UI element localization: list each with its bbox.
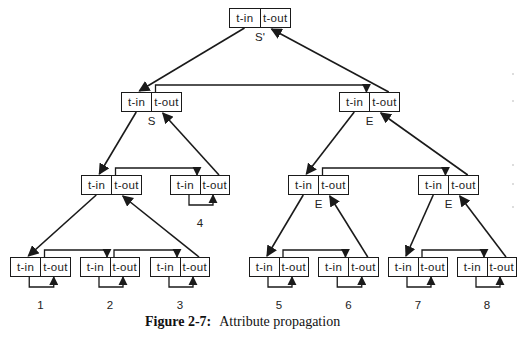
- t-out-cell: t-out: [112, 176, 141, 194]
- leaf-number-label: 1: [37, 299, 43, 311]
- t-in-cell: t-in: [289, 176, 319, 194]
- node-s: t-int-out: [121, 92, 182, 112]
- t-in-cell: t-in: [82, 176, 112, 194]
- sibling-arrow: [45, 250, 108, 257]
- leaf-number-label: 8: [484, 299, 490, 311]
- node-s_l: t-int-out: [81, 175, 142, 195]
- t-in-cell: t-in: [458, 258, 488, 276]
- leaf-loop-arrow: [407, 277, 431, 287]
- t-out-cell: t-out: [319, 176, 348, 194]
- leaf-number-label: 5: [276, 299, 282, 311]
- t-in-cell: t-in: [122, 93, 152, 111]
- t-in-cell: t-in: [151, 258, 181, 276]
- inherit-arrow: [406, 195, 433, 256]
- sibling-arrow: [283, 250, 345, 257]
- leaf-loop-arrow: [169, 277, 193, 287]
- t-out-cell: t-out: [152, 93, 181, 111]
- t-out-cell: t-out: [488, 258, 517, 276]
- leaf-number-label: 3: [177, 299, 183, 311]
- node-leaf2: t-int-out: [80, 257, 140, 277]
- node-leaf3: t-int-out: [150, 257, 210, 277]
- node-e1: t-int-out: [339, 92, 400, 112]
- nonterminal-label: S': [255, 31, 265, 43]
- synthesize-arrow: [330, 196, 368, 257]
- t-in-cell: t-in: [11, 258, 41, 276]
- leaf-number-label: 2: [107, 299, 113, 311]
- inherit-arrow: [139, 28, 244, 91]
- t-in-cell: t-in: [230, 9, 261, 27]
- t-in-cell: t-in: [340, 93, 370, 111]
- t-in-cell: t-in: [250, 258, 280, 276]
- node-leaf4: t-int-out: [170, 175, 230, 195]
- attribute-propagation-diagram: t-int-outS't-int-outSt-int-outEt-int-out…: [0, 0, 523, 337]
- inherit-arrow: [267, 195, 303, 256]
- edge-layer: [0, 0, 523, 337]
- t-out-cell: t-out: [181, 258, 210, 276]
- t-in-cell: t-in: [419, 176, 449, 194]
- sibling-arrow: [156, 85, 367, 92]
- leaf-number-label: 6: [345, 299, 351, 311]
- t-out-cell: t-out: [280, 258, 309, 276]
- leaf-number-label: 4: [197, 217, 203, 229]
- t-out-cell: t-out: [111, 258, 140, 276]
- figure-title: Attribute propagation: [219, 314, 340, 329]
- leaf-loop-arrow: [189, 195, 213, 205]
- nonterminal-label: S: [148, 115, 156, 127]
- t-in-cell: t-in: [171, 176, 201, 194]
- t-out-cell: t-out: [201, 176, 230, 194]
- t-out-cell: t-out: [41, 258, 70, 276]
- synthesize-arrow: [163, 113, 219, 175]
- leaf-loop-arrow: [337, 277, 362, 287]
- node-leaf8: t-int-out: [457, 257, 517, 277]
- leaf-loop-arrow: [268, 277, 292, 287]
- nonterminal-label: E: [315, 198, 323, 210]
- node-leaf7: t-int-out: [388, 257, 448, 277]
- t-in-cell: t-in: [389, 258, 419, 276]
- leaf-loop-arrow: [476, 277, 500, 287]
- t-out-cell: t-out: [419, 258, 448, 276]
- inherit-arrow: [28, 195, 96, 256]
- inherit-arrow: [306, 112, 354, 174]
- synthesize-arrow: [381, 113, 468, 175]
- synthesize-arrow: [123, 196, 199, 257]
- sibling-arrow: [114, 250, 177, 257]
- sibling-arrow: [422, 250, 484, 257]
- inherit-arrow: [99, 112, 136, 174]
- t-out-cell: t-out: [261, 9, 291, 27]
- t-out-cell: t-out: [370, 93, 399, 111]
- node-e2: t-int-out: [288, 175, 349, 195]
- t-in-cell: t-in: [319, 258, 349, 276]
- node-leaf6: t-int-out: [318, 257, 379, 277]
- t-in-cell: t-in: [81, 258, 111, 276]
- t-out-cell: t-out: [449, 176, 478, 194]
- synthesize-arrow: [272, 29, 389, 92]
- nonterminal-label: E: [445, 198, 453, 210]
- node-e3: t-int-out: [418, 175, 479, 195]
- figure-number: Figure 2-7:: [145, 314, 211, 329]
- figure-caption: Figure 2-7:Attribute propagation: [145, 314, 340, 330]
- t-out-cell: t-out: [349, 258, 378, 276]
- sibling-arrow: [116, 168, 198, 175]
- node-leaf1: t-int-out: [10, 257, 71, 277]
- node-root: t-int-out: [229, 8, 291, 28]
- synthesize-arrow: [460, 196, 506, 257]
- leaf-number-label: 7: [415, 299, 421, 311]
- nonterminal-label: E: [366, 115, 374, 127]
- leaf-loop-arrow: [29, 277, 54, 287]
- sibling-arrow: [323, 168, 446, 175]
- leaf-loop-arrow: [99, 277, 123, 287]
- node-leaf5: t-int-out: [249, 257, 309, 277]
